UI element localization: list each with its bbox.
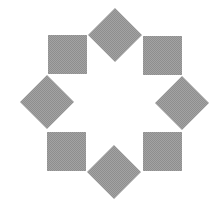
diagram-canvas bbox=[0, 0, 218, 208]
top-diamond bbox=[88, 8, 142, 62]
left-diamond bbox=[20, 75, 74, 129]
right-diamond bbox=[155, 76, 209, 130]
bottom-right-square bbox=[143, 132, 182, 171]
top-left-square bbox=[48, 35, 87, 74]
octagonal-ring-diagram bbox=[0, 0, 218, 208]
top-right-square bbox=[143, 36, 182, 75]
bottom-diamond bbox=[87, 145, 141, 199]
bottom-left-square bbox=[47, 132, 86, 171]
